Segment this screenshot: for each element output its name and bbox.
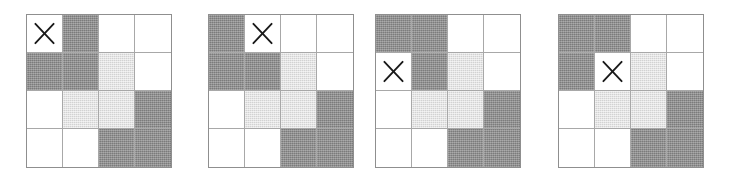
grid-cell [99,91,135,129]
grid-cell [63,129,99,167]
grid-cell [484,91,520,129]
grid-cell [412,53,448,91]
x-marker-icon [27,15,62,52]
grid-cell [595,53,631,91]
grid-cell [99,53,135,91]
panel-1 [26,14,172,168]
grid-cell [63,15,99,53]
grid-cell [99,129,135,167]
grid-cell [245,53,281,91]
grid-cell [667,129,703,167]
grid-cell [595,15,631,53]
grid-cell [448,53,484,91]
grid-cell [595,91,631,129]
grid-cell [448,91,484,129]
grid-cell [317,53,353,91]
panel-3 [375,14,521,168]
grid-cell [245,15,281,53]
grid-cell [631,91,667,129]
grid-cell [135,91,171,129]
grid-cell [484,15,520,53]
grid-cell [448,15,484,53]
grid-cell [667,15,703,53]
grid-cell [448,129,484,167]
grid-cell [209,15,245,53]
grid-cell [667,91,703,129]
grid-cell [27,91,63,129]
x-marker-icon [245,15,280,52]
grid-cell [412,91,448,129]
grid-cell [631,129,667,167]
grid-cell [631,53,667,91]
grid-cell [281,53,317,91]
grid-cell [209,129,245,167]
grid-cell [412,15,448,53]
grid-cell [412,129,448,167]
grid-cell [99,15,135,53]
grid-cell [559,53,595,91]
grid-cell [559,15,595,53]
grid-cell [376,91,412,129]
grid-cell [281,129,317,167]
grid-cell [135,15,171,53]
x-marker-icon [376,53,411,90]
grid-cell [63,91,99,129]
grid-cell [245,129,281,167]
grid-cell [135,53,171,91]
x-marker-icon [595,53,630,90]
grid-cell [245,91,281,129]
grid-cell [27,129,63,167]
grid-cell [281,15,317,53]
grid-cell [317,15,353,53]
panel-2 [208,14,354,168]
grid-cell [484,53,520,91]
grid-cell [281,91,317,129]
grid-sequence-figure [0,0,732,183]
grid-cell [27,53,63,91]
grid-cell [631,15,667,53]
grid-cell [667,53,703,91]
grid-cell [317,91,353,129]
grid-cell [595,129,631,167]
grid-cell [376,15,412,53]
grid-cell [317,129,353,167]
grid-cell [559,129,595,167]
grid-cell [209,91,245,129]
panel-4 [558,14,704,168]
grid-cell [484,129,520,167]
grid-cell [135,129,171,167]
grid-cell [376,129,412,167]
grid-cell [27,15,63,53]
grid-cell [376,53,412,91]
grid-cell [559,91,595,129]
grid-cell [209,53,245,91]
grid-cell [63,53,99,91]
